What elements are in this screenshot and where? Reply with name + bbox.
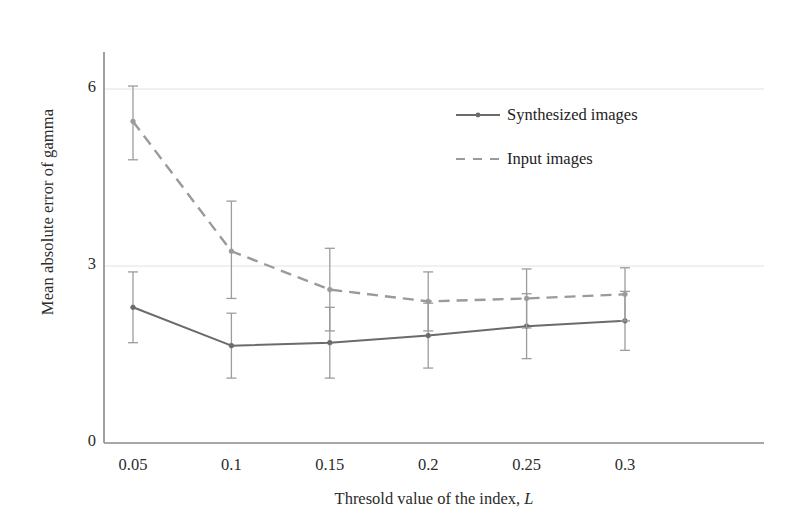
x-tick-label: 0.05	[88, 455, 178, 475]
y-tick-label: 6	[56, 79, 96, 96]
x-axis-title-text: Thresold value of the index,	[335, 489, 521, 508]
legend-label: Synthesized images	[507, 105, 638, 125]
legend-item: Synthesized images	[455, 104, 638, 126]
x-axis-title: Thresold value of the index, L	[104, 489, 764, 509]
legend-label: Input images	[507, 149, 593, 169]
x-axis-title-symbol: L	[524, 489, 533, 508]
y-axis-title: Mean absolute error of gamma	[38, 62, 58, 362]
legend: Synthesized imagesInput images	[455, 104, 638, 192]
figure-container: 036 0.050.10.150.20.250.3 Mean absolute …	[0, 0, 808, 530]
legend-key-solid-line-icon	[455, 108, 501, 122]
x-tick-label: 0.1	[186, 455, 276, 475]
x-tick-label: 0.3	[580, 455, 670, 475]
legend-key-dashed-line-icon	[455, 152, 501, 166]
y-tick-label: 3	[56, 256, 96, 273]
x-tick-label: 0.2	[383, 455, 473, 475]
plot-area: Mean absolute error of gamma	[104, 52, 764, 443]
y-tick-label: 0	[56, 433, 96, 450]
x-tick-label: 0.25	[482, 455, 572, 475]
legend-item: Input images	[455, 148, 638, 170]
x-tick-label: 0.15	[285, 455, 375, 475]
